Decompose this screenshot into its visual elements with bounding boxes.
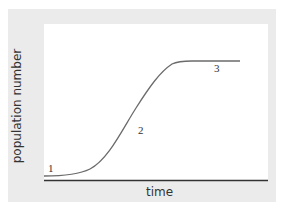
- y-axis-label: population number: [10, 49, 24, 164]
- logistic-growth-chart: 1 2 3: [0, 0, 282, 212]
- population-curve: [44, 61, 240, 176]
- annotation-2: 2: [138, 124, 144, 136]
- annotation-3: 3: [214, 62, 220, 74]
- annotation-1: 1: [48, 162, 54, 174]
- x-axis-label: time: [146, 185, 173, 199]
